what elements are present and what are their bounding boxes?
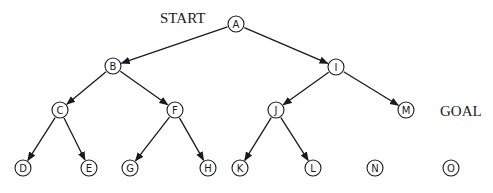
- node-a: A: [228, 16, 244, 32]
- node-h: H: [200, 160, 216, 176]
- node-c: C: [52, 102, 68, 118]
- node-label: F: [172, 105, 178, 116]
- edge-a-b-arrow-icon: [122, 27, 228, 63]
- node-b: B: [105, 58, 121, 74]
- node-d: D: [15, 160, 31, 176]
- node-label: I: [335, 62, 338, 73]
- node-label: N: [371, 163, 378, 174]
- node-l: L: [305, 160, 321, 176]
- edges-layer: [28, 27, 398, 161]
- edge-j-k-arrow-icon: [245, 118, 272, 161]
- node-label: G: [126, 163, 134, 174]
- node-label: H: [204, 163, 212, 174]
- tree-diagram: ABICFJMDEGHKLNO STARTGOAL: [0, 0, 493, 193]
- edge-a-i-arrow-icon: [244, 28, 327, 64]
- edge-b-f-arrow-icon: [120, 71, 167, 105]
- node-label: B: [110, 61, 117, 72]
- goal-label: GOAL: [440, 103, 482, 119]
- node-k: K: [232, 160, 248, 176]
- node-g: G: [122, 160, 138, 176]
- node-label: J: [274, 105, 278, 116]
- node-label: K: [237, 163, 244, 174]
- edge-b-c-arrow-icon: [67, 72, 106, 105]
- node-e: E: [81, 160, 97, 176]
- edge-f-h-arrow-icon: [179, 118, 203, 160]
- node-j: J: [268, 102, 284, 118]
- node-m: M: [398, 102, 414, 118]
- edge-c-e-arrow-icon: [64, 118, 85, 160]
- node-label: L: [310, 163, 316, 174]
- edge-c-d-arrow-icon: [28, 118, 55, 161]
- node-label: E: [86, 163, 92, 174]
- edge-i-j-arrow-icon: [283, 72, 328, 105]
- edge-i-m-arrow-icon: [344, 72, 399, 106]
- edge-j-l-arrow-icon: [281, 118, 308, 161]
- node-label: D: [19, 163, 27, 174]
- node-label: O: [447, 163, 455, 174]
- node-i: I: [328, 59, 344, 75]
- start-label: START: [160, 10, 205, 26]
- node-label: A: [233, 19, 240, 30]
- node-f: F: [167, 102, 183, 118]
- node-label: C: [57, 105, 64, 116]
- annotations-layer: STARTGOAL: [160, 10, 482, 119]
- node-n: N: [367, 160, 383, 176]
- node-o: O: [443, 160, 459, 176]
- edge-f-g-arrow-icon: [136, 117, 170, 161]
- node-label: M: [402, 105, 411, 116]
